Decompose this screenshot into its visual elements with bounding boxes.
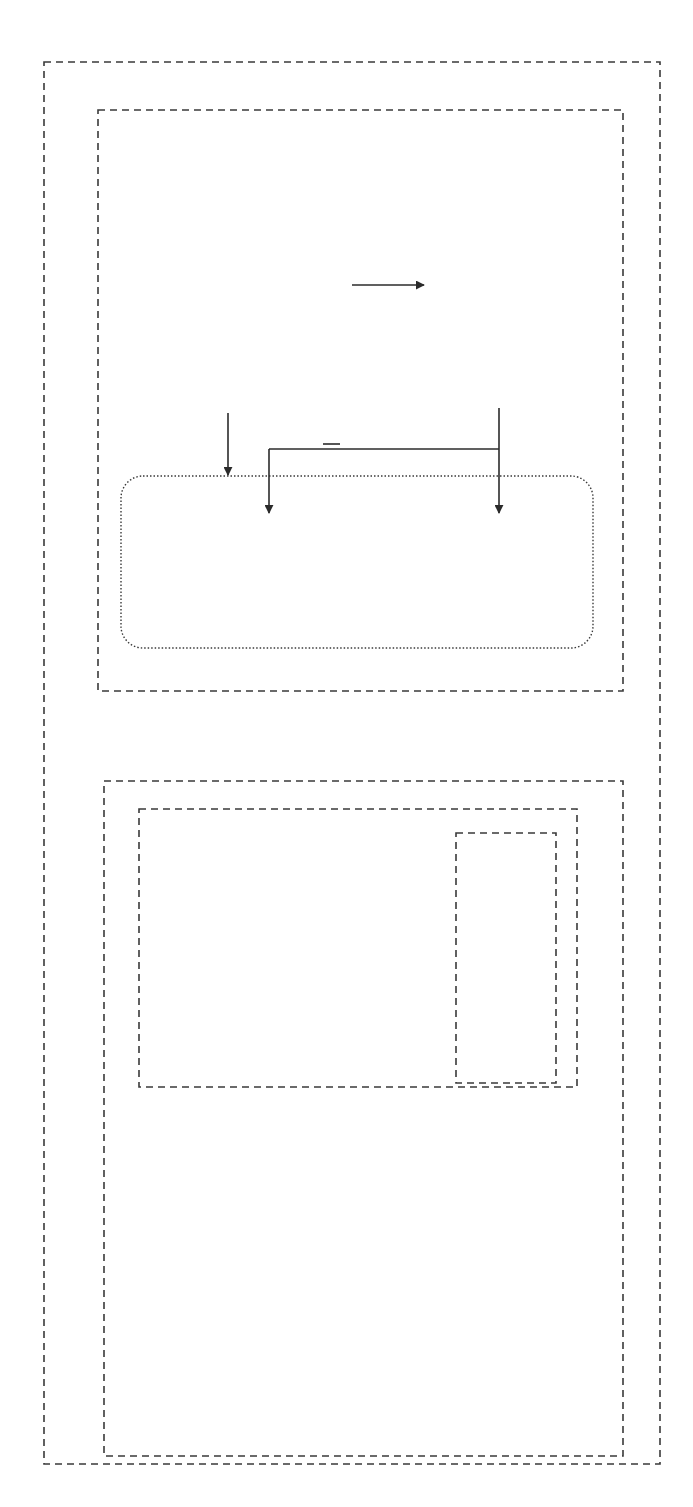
training-overlay-model-container — [98, 110, 623, 691]
diagram-canvas — [0, 0, 693, 1507]
team-task-model-container — [139, 809, 577, 1087]
training-delivery-container — [121, 476, 593, 648]
edges — [228, 285, 499, 513]
team-training-model-container — [44, 62, 660, 1464]
training-environment-model-container — [456, 833, 556, 1083]
team-performance-model-container — [104, 781, 623, 1456]
